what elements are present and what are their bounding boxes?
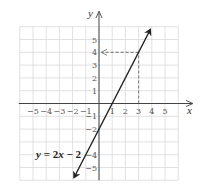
y-tick-label: 2 [92, 74, 97, 83]
x-tick-label: 5 [162, 107, 167, 116]
x-tick-label: −4 [40, 107, 52, 116]
y-tick-label: 3 [92, 61, 97, 70]
equation-eq: = 2 [41, 148, 59, 160]
y-tick-label: 5 [92, 36, 97, 45]
x-tick-label: 4 [149, 107, 154, 116]
equation-label: y = 2x − 2 [34, 148, 81, 160]
x-tick-label: 2 [123, 107, 128, 116]
y-tick-label: −2 [85, 125, 97, 134]
x-tick-label: −3 [54, 107, 66, 116]
y-tick-label: 4 [92, 48, 97, 57]
equation-rest: − 2 [64, 148, 82, 160]
coordinate-plane: −5−4−3−2−11234554321−1−2−4−5 y x y = 2x … [0, 0, 202, 191]
y-tick-label: 1 [92, 87, 97, 96]
y-tick-label: −1 [85, 112, 97, 121]
x-axis-label: x [186, 104, 192, 116]
x-tick-label: −5 [27, 107, 39, 116]
y-tick-label: −5 [85, 164, 97, 173]
x-tick-label: 3 [136, 107, 141, 116]
x-tick-label: −2 [67, 107, 79, 116]
y-axis-label: y [87, 7, 93, 19]
